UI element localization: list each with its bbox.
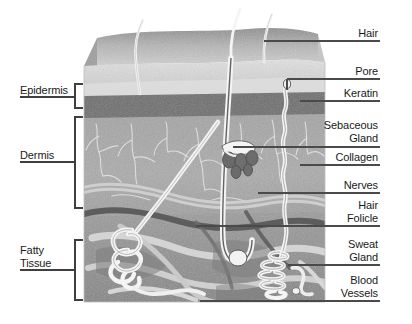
label-fatty-tissue: Fatty Tissue bbox=[20, 244, 51, 269]
label-hair: Hair bbox=[268, 27, 378, 40]
label-pore: Pore bbox=[268, 65, 378, 78]
label-hair-folicle: Hair Folicle bbox=[268, 199, 378, 224]
label-nerves: Nerves bbox=[268, 179, 378, 192]
label-sweat-gland: Sweat Gland bbox=[268, 238, 378, 263]
label-keratin: Keratin bbox=[268, 87, 378, 100]
label-dermis: Dermis bbox=[20, 149, 54, 162]
skin-diagram-figure: Epidermis Dermis Fatty Tissue Hair Pore … bbox=[0, 0, 412, 324]
label-collagen: Collagen bbox=[268, 151, 378, 164]
label-sebaceous-gland: Sebaceous Gland bbox=[268, 119, 378, 144]
label-blood-vessels: Blood Vessels bbox=[268, 274, 378, 299]
label-epidermis: Epidermis bbox=[20, 84, 68, 97]
